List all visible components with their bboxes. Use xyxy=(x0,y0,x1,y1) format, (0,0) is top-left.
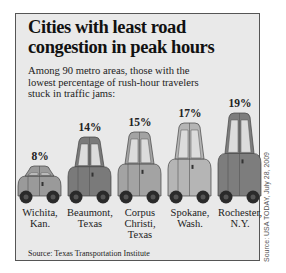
city-label: Rochester,N.Y. xyxy=(215,207,265,229)
credit-line: Source: USA TODAY, July 28, 2009 xyxy=(263,152,270,262)
car-bar xyxy=(66,136,113,204)
car-bar xyxy=(216,112,263,204)
city-label: Beaumont,Texas xyxy=(65,207,115,229)
city-label: Wichita,Kan. xyxy=(15,207,65,229)
bar-value-label: 19% xyxy=(216,97,264,109)
chart-frame: Cities with least road congestion in pea… xyxy=(15,13,260,261)
car-bars: 8%14%15%17%19% xyxy=(16,14,261,206)
source-note: Source: Texas Transportation Institute xyxy=(28,249,150,258)
bar-value-label: 15% xyxy=(116,116,164,128)
bar-value-label: 14% xyxy=(66,121,114,133)
city-label: CorpusChristi,Texas xyxy=(115,207,165,240)
car-bar xyxy=(16,165,63,204)
bar-value-label: 8% xyxy=(16,150,64,162)
bar-value-label: 17% xyxy=(166,107,214,119)
car-bar xyxy=(166,122,213,204)
car-bar xyxy=(116,131,163,204)
city-label: Spokane,Wash. xyxy=(165,207,215,229)
